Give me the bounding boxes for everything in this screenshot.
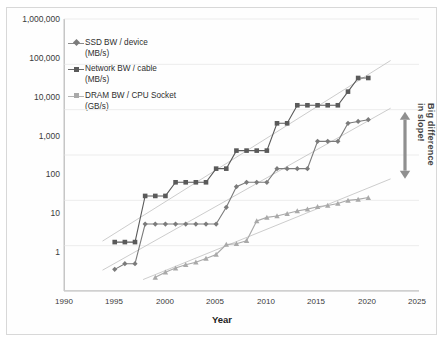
x-tick-label: 2005 [193,297,237,306]
y-tick-label: 100 [4,170,60,179]
chart-figure: 1,000,000 100,000 10,000 1,000 100 10 1 … [0,0,444,343]
dram-series-marker-icon [68,92,84,100]
y-tick-label: 1,000,000 [4,15,60,24]
x-tick-label: 1995 [92,297,136,306]
network-series-marker-icon [68,66,84,74]
legend-unit: (GB/s) [85,102,176,113]
legend-item-network: Network BW / cable (MB/s) [68,64,176,85]
legend-item-dram: DRAM BW / CPU Socket (GB/s) [68,91,176,112]
chart-legend: SSD BW / device (MB/s) Network BW / cabl… [68,38,176,117]
x-tick-label: 2020 [345,297,389,306]
x-axis-title: Year [0,314,444,325]
slope-annotation-line1: Big difference [426,103,436,166]
slope-annotation-line2: in slope! [416,103,426,166]
y-tick-label: 10 [4,209,60,218]
y-tick-label: 1 [4,248,60,257]
ssd-series-marker-icon [68,39,84,47]
y-tick-label: 100,000 [4,54,60,63]
legend-label: Network BW / cable [85,64,157,75]
legend-item-ssd: SSD BW / device (MB/s) [68,38,176,59]
x-tick-label: 1990 [42,297,86,306]
y-tick-label: 10,000 [4,93,60,102]
legend-label: SSD BW / device [85,38,148,49]
legend-unit: (MB/s) [85,49,176,60]
legend-label: DRAM BW / CPU Socket [85,91,176,102]
x-tick-label: 2000 [143,297,187,306]
y-tick-label: 1,000 [4,132,60,141]
x-tick-label: 2025 [395,297,439,306]
x-tick-label: 2010 [244,297,288,306]
legend-unit: (MB/s) [85,75,176,86]
x-tick-label: 2015 [294,297,338,306]
slope-annotation: Big difference in slope! [416,103,436,166]
